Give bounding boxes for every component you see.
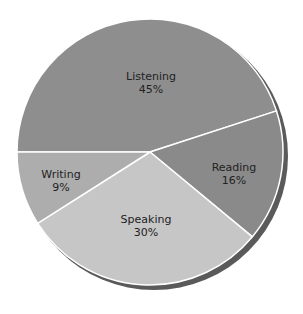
label-speaking-name: Speaking [121,213,172,226]
label-writing-value: 9% [52,181,69,194]
label-speaking-value: 30% [134,226,158,239]
label-listening-value: 45% [139,83,163,96]
pie-chart: Listening 45% Reading 16% Speaking 30% W… [0,0,303,314]
label-listening-name: Listening [126,70,176,83]
label-writing-name: Writing [41,168,80,181]
label-reading-value: 16% [222,174,246,187]
label-reading-name: Reading [212,161,257,174]
